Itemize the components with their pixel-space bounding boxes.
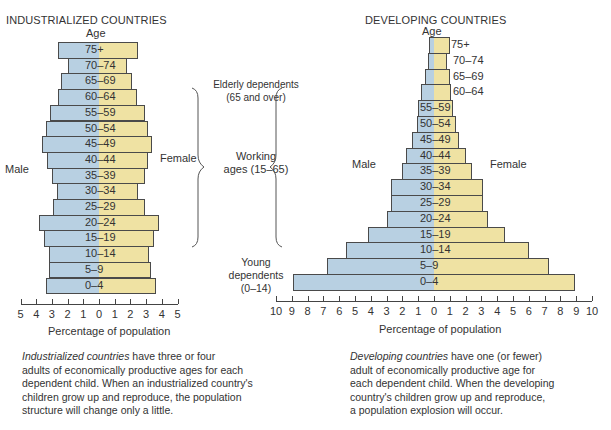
axis-tick-label: 4 bbox=[368, 305, 374, 317]
axis-tick-label: 5 bbox=[352, 305, 358, 317]
age-group-label: 0–4 bbox=[420, 274, 438, 289]
female-bar bbox=[434, 53, 447, 70]
male-bar bbox=[425, 69, 434, 86]
axis-tick-label: 1 bbox=[447, 305, 453, 317]
age-group-label: 5–9 bbox=[420, 258, 438, 273]
age-group-label: 60–64 bbox=[453, 84, 484, 99]
pyramid-row: 0–4 bbox=[0, 274, 611, 291]
caption-line: each dependent child. When the developin… bbox=[350, 377, 610, 391]
pyramid-row: 45–49 bbox=[0, 132, 611, 149]
axis-tick-label: 9 bbox=[573, 305, 579, 317]
developing-caption: Developing countries have one (or fewer)… bbox=[350, 350, 610, 418]
axis-tick-label: 7 bbox=[542, 305, 548, 317]
axis-tick-label: 1 bbox=[415, 305, 421, 317]
axis-tick-label: 2 bbox=[399, 305, 405, 317]
pyramid-row: 60–64 bbox=[0, 84, 611, 101]
caption-line: structure will change only a little. bbox=[22, 404, 292, 418]
axis-tick bbox=[529, 296, 530, 301]
pyramid-row: 30–34 bbox=[0, 179, 611, 196]
axis-tick bbox=[545, 296, 546, 301]
developing-age-label: Age bbox=[422, 25, 442, 37]
axis-line bbox=[276, 301, 592, 302]
pyramid-row: 10–14 bbox=[0, 242, 611, 259]
axis-tick bbox=[592, 296, 593, 301]
age-group-label: 25–29 bbox=[420, 195, 451, 210]
age-group-label: 75+ bbox=[451, 37, 470, 52]
age-group-label: 20–24 bbox=[420, 211, 451, 226]
axis-tick bbox=[497, 296, 498, 301]
axis-tick-label: 4 bbox=[494, 305, 500, 317]
female-bar bbox=[434, 69, 450, 86]
pyramid-row: 20–24 bbox=[0, 211, 611, 228]
axis-tick bbox=[434, 296, 435, 301]
axis-tick bbox=[481, 296, 482, 301]
female-bar bbox=[434, 84, 451, 101]
caption-line: country's children grow up and reproduce… bbox=[350, 391, 610, 405]
axis-tick-label: 5 bbox=[510, 305, 516, 317]
axis-tick bbox=[402, 296, 403, 301]
male-bar bbox=[421, 84, 434, 101]
axis-tick bbox=[292, 296, 293, 301]
pyramid-row: 70–74 bbox=[0, 53, 611, 70]
axis-tick-label: 9 bbox=[289, 305, 295, 317]
pyramid-row: 40–44 bbox=[0, 148, 611, 165]
age-group-label: 30–34 bbox=[420, 179, 451, 194]
pyramid-row: 25–29 bbox=[0, 195, 611, 212]
axis-tick bbox=[560, 296, 561, 301]
pyramid-row: 5–9 bbox=[0, 258, 611, 275]
age-group-label: 45–49 bbox=[420, 132, 451, 147]
age-group-label: 40–44 bbox=[420, 148, 451, 163]
axis-tick bbox=[371, 296, 372, 301]
age-group-label: 65–69 bbox=[453, 69, 484, 84]
axis-tick bbox=[387, 296, 388, 301]
axis-tick-label: 8 bbox=[557, 305, 563, 317]
axis-tick bbox=[308, 296, 309, 301]
axis-tick bbox=[276, 296, 277, 301]
female-bar bbox=[434, 274, 575, 291]
axis-tick-label: 10 bbox=[586, 305, 598, 317]
age-group-label: 50–54 bbox=[420, 116, 451, 131]
axis-tick bbox=[355, 296, 356, 301]
axis-tick-label: 3 bbox=[384, 305, 390, 317]
female-bar bbox=[434, 37, 450, 54]
axis-tick bbox=[576, 296, 577, 301]
axis-tick bbox=[418, 296, 419, 301]
axis-tick-label: 0 bbox=[431, 305, 437, 317]
caption-line: Developing countries have one (or fewer) bbox=[350, 350, 610, 364]
axis-tick bbox=[466, 296, 467, 301]
pyramid-row: 50–54 bbox=[0, 116, 611, 133]
axis-tick-label: 8 bbox=[305, 305, 311, 317]
industrialized-caption: Industrialized countries have three or f… bbox=[22, 350, 292, 418]
axis-tick-label: 6 bbox=[526, 305, 532, 317]
caption-line: children grow up and reproduce, the popu… bbox=[22, 391, 292, 405]
axis-tick bbox=[513, 296, 514, 301]
age-group-label: 55–59 bbox=[420, 100, 451, 115]
axis-tick-label: 2 bbox=[463, 305, 469, 317]
axis-tick-label: 10 bbox=[270, 305, 282, 317]
developing-x-axis-title: Percentage of population bbox=[379, 323, 501, 335]
caption-line: a population explosion will occur. bbox=[350, 404, 610, 418]
age-group-label: 15–19 bbox=[420, 227, 451, 242]
axis-tick bbox=[450, 296, 451, 301]
axis-tick bbox=[323, 296, 324, 301]
pyramid-row: 15–19 bbox=[0, 227, 611, 244]
age-group-label: 70–74 bbox=[453, 53, 484, 68]
pyramid-row: 35–39 bbox=[0, 163, 611, 180]
pyramid-row: 75+ bbox=[0, 37, 611, 54]
female-bar bbox=[434, 258, 549, 275]
pyramid-row: 65–69 bbox=[0, 69, 611, 86]
axis-tick-label: 6 bbox=[336, 305, 342, 317]
male-bar bbox=[327, 258, 434, 275]
age-group-label: 10–14 bbox=[420, 242, 451, 257]
caption-line: adult of economically productive age for bbox=[350, 364, 610, 378]
caption-line: dependent child. When an industrialized … bbox=[22, 377, 292, 391]
age-group-label: 35–39 bbox=[420, 163, 451, 178]
caption-line: adults of economically productive ages f… bbox=[22, 364, 292, 378]
axis-tick-label: 3 bbox=[478, 305, 484, 317]
caption-line: Industrialized countries have three or f… bbox=[22, 350, 292, 364]
pyramid-row: 55–59 bbox=[0, 100, 611, 117]
axis-tick bbox=[339, 296, 340, 301]
axis-tick-label: 7 bbox=[320, 305, 326, 317]
male-bar bbox=[293, 274, 434, 291]
